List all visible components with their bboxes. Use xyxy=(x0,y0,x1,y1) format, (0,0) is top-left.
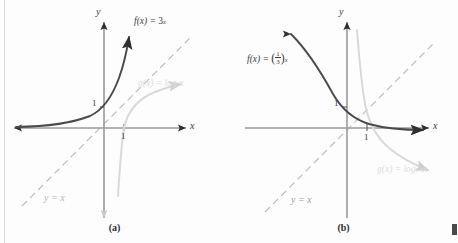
identity-label-a: y = x xyxy=(44,192,65,203)
logarithm-label-a: g(x) = log3x xyxy=(138,78,184,88)
panel-b-caption: (b) xyxy=(229,222,458,233)
panel-a-graph xyxy=(0,0,229,243)
exponential-exponent-b: x xyxy=(285,56,288,63)
y-axis-label-b: y xyxy=(339,6,343,17)
logarithm-curve-b xyxy=(357,30,428,170)
x-axis-label-a: x xyxy=(190,120,194,131)
logarithm-label-prefix-b: g(x) = log xyxy=(377,164,416,174)
x-tick-label-a: 1 xyxy=(121,131,126,141)
logarithm-argument-b: x xyxy=(423,164,427,174)
logarithm-label-b: g(x) = log1/3x xyxy=(377,164,427,174)
panel-b-graph xyxy=(229,0,458,243)
exponential-label-b: f(x) = ( 1 3 )x xyxy=(247,50,288,66)
exponential-curve-b xyxy=(291,34,423,130)
x-tick-label-b: 1 xyxy=(364,132,369,142)
exponential-label-prefix-a: f(x) = xyxy=(134,16,158,26)
exponential-label-prefix-b: f(x) = xyxy=(247,54,271,64)
panel-a-caption: (a) xyxy=(0,222,229,233)
y-axis-label-a: y xyxy=(96,6,100,17)
logarithm-curve-a xyxy=(118,84,181,196)
exponential-curve-a xyxy=(16,37,129,127)
y-tick-label-b: 1 xyxy=(334,98,339,108)
panel-b: y x 1 1 f(x) = ( 1 3 )x g(x) = log1/3x y… xyxy=(229,0,458,243)
exponential-label-a: f(x) = 3x xyxy=(134,16,166,26)
identity-line-b xyxy=(265,42,435,212)
logarithm-label-prefix-a: g(x) = log xyxy=(138,78,177,88)
cropped-edge-marker xyxy=(452,224,457,235)
exponential-arrow-left-b xyxy=(283,30,291,37)
exponential-exponent-a: x xyxy=(163,18,166,25)
x-axis-label-b: x xyxy=(433,120,437,131)
identity-label-b: y = x xyxy=(291,194,312,205)
identity-line-a xyxy=(22,36,192,206)
panel-a: y x 1 1 f(x) = 3x g(x) = log3x y = x (a) xyxy=(0,0,229,243)
y-tick-label-a: 1 xyxy=(92,98,97,108)
exponential-logarithm-figure: y x 1 1 f(x) = 3x g(x) = log3x y = x (a) xyxy=(0,0,458,243)
logarithm-argument-a: x xyxy=(180,78,184,88)
